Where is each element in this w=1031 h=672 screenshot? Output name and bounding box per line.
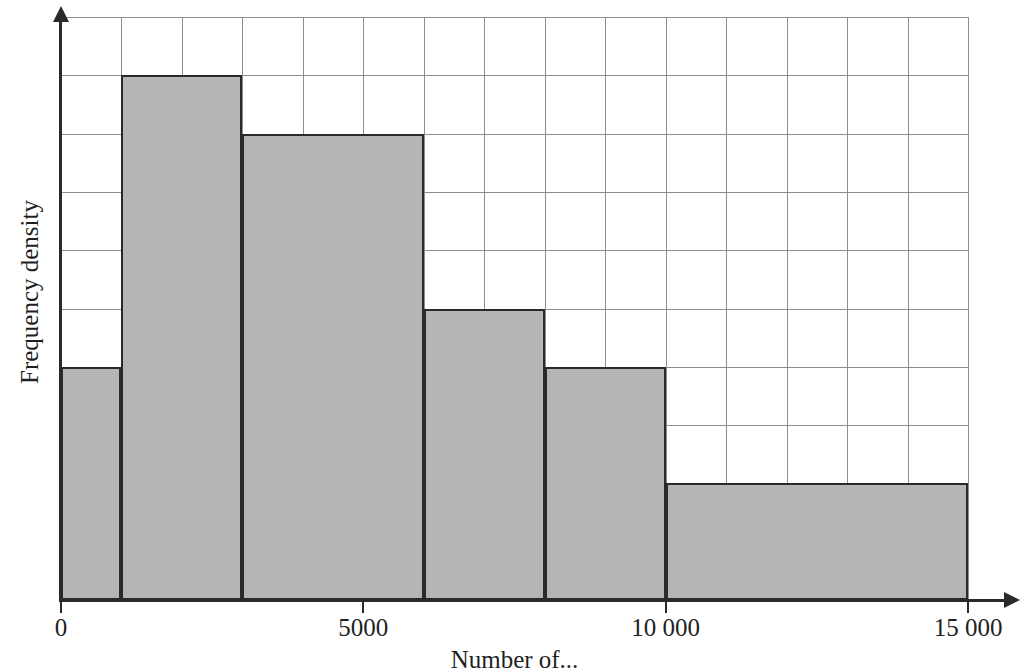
x-axis-title: Number of... <box>61 646 968 672</box>
histogram-bar <box>666 483 968 600</box>
x-axis-line <box>61 599 1006 602</box>
x-axis-tick-label: 15 000 <box>934 613 1003 643</box>
x-axis-tick <box>967 602 969 613</box>
histogram-bar <box>61 367 121 600</box>
x-axis-tick-label: 5000 <box>338 613 388 643</box>
x-axis-tick-label: 10 000 <box>631 613 700 643</box>
gridline-vertical <box>968 17 969 600</box>
histogram-bar <box>545 367 666 600</box>
y-axis-line <box>59 20 62 602</box>
x-axis-tick <box>362 602 364 613</box>
x-axis-tick <box>60 602 62 613</box>
y-axis-title: Frequency density <box>16 142 44 442</box>
x-axis-arrow-icon <box>1004 592 1020 608</box>
x-axis-tick <box>665 602 667 613</box>
histogram-bar <box>121 75 242 600</box>
plot-area <box>61 17 968 600</box>
gridline-horizontal <box>61 17 968 18</box>
histogram-bar <box>242 134 423 600</box>
y-axis-arrow-icon <box>53 6 69 22</box>
histogram-bar <box>424 309 545 601</box>
x-axis-tick-label: 0 <box>55 613 68 643</box>
